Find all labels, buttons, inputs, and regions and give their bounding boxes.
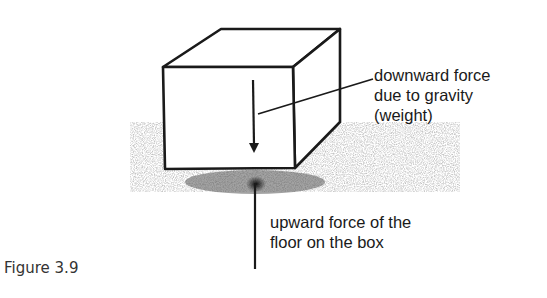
normal-label-line2: floor on the box [270,232,411,252]
weight-label-line2: due to gravity [374,85,490,105]
normal-force-label: upward force of the floor on the box [270,212,411,252]
weight-label: downward force due to gravity (weight) [374,65,490,125]
force-diagram [0,0,547,298]
weight-label-line3: (weight) [374,105,490,125]
normal-label-line1: upward force of the [270,212,411,232]
weight-label-line1: downward force [374,65,490,85]
figure-caption: Figure 3.9 [4,259,78,277]
